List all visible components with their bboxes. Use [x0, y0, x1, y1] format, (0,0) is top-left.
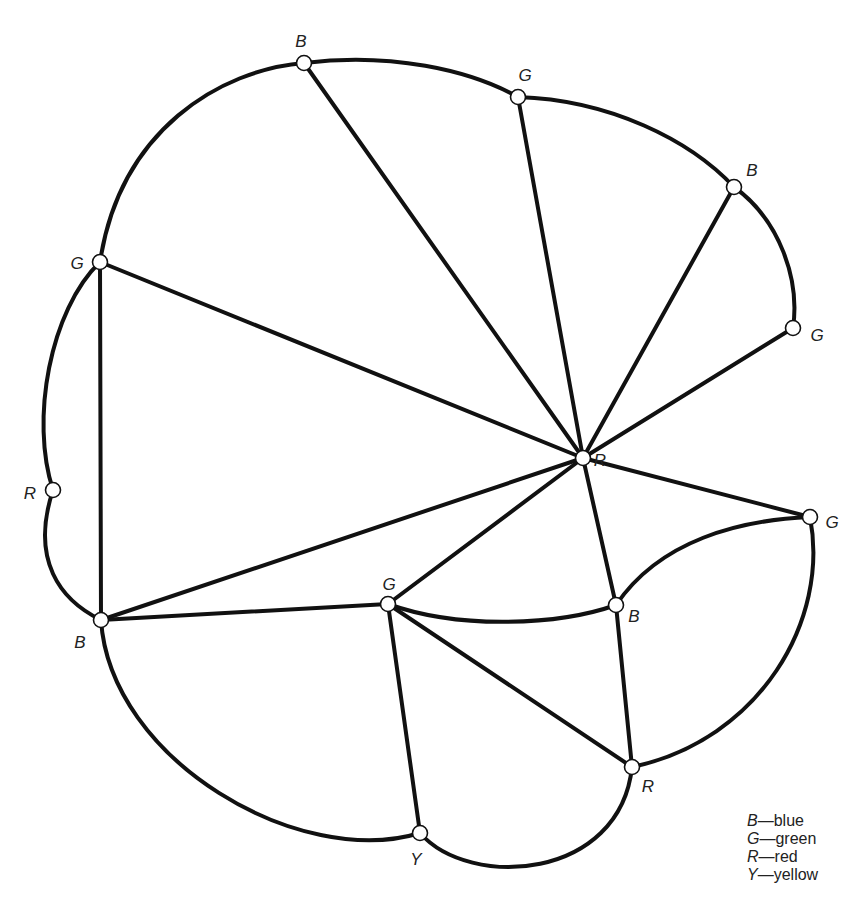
vertex-color-label: B — [628, 607, 639, 626]
vertex-color-label: G — [810, 326, 823, 345]
vertex-color-label: Y — [410, 850, 423, 869]
node-labels-group: BGBGGRRGBGBRY — [24, 32, 839, 869]
edge-n3-n4 — [734, 187, 794, 328]
vertex-n8 — [803, 510, 818, 525]
edge-n10-n11 — [388, 604, 616, 622]
edge-n9-n13 — [101, 620, 420, 840]
legend-key: R — [747, 848, 759, 865]
vertex-n12 — [625, 760, 640, 775]
edge-n13-n12 — [420, 767, 632, 867]
edge-n4-n6 — [583, 328, 793, 458]
vertex-color-label: G — [70, 254, 83, 273]
vertex-n6 — [576, 451, 591, 466]
vertex-color-label: G — [518, 66, 531, 85]
vertex-n13 — [413, 826, 428, 841]
edge-n9-n6 — [101, 458, 583, 620]
vertex-n3 — [727, 180, 742, 195]
edge-n5-n7 — [44, 262, 100, 490]
legend-row-green: G—green — [747, 830, 818, 848]
legend-row-red: R—red — [747, 848, 818, 866]
legend-label: blue — [774, 812, 804, 829]
edge-n6-n8 — [583, 458, 810, 517]
legend-label: red — [775, 848, 798, 865]
vertex-color-label: B — [746, 161, 757, 180]
edge-n5-n6 — [100, 262, 583, 458]
vertex-n10 — [381, 597, 396, 612]
legend-separator: — — [758, 812, 774, 829]
edge-n10-n6 — [388, 458, 583, 604]
vertex-color-label: G — [825, 513, 838, 532]
legend-key: G — [747, 830, 759, 847]
vertex-color-label: B — [295, 32, 306, 51]
legend-row-blue: B—blue — [747, 812, 818, 830]
vertex-n4 — [786, 321, 801, 336]
edge-n10-n12 — [388, 604, 632, 767]
legend-label: green — [775, 830, 816, 847]
vertex-color-label: R — [642, 777, 654, 796]
edge-n10-n13 — [388, 604, 420, 833]
edge-n3-n6 — [583, 187, 734, 458]
vertex-n7 — [46, 483, 61, 498]
legend-separator: — — [759, 830, 775, 847]
vertex-n9 — [94, 613, 109, 628]
edge-n7-n9 — [45, 490, 101, 620]
edge-n11-n8 — [616, 517, 810, 605]
vertex-n5 — [93, 255, 108, 270]
vertex-color-label: G — [382, 575, 395, 594]
vertex-color-label: R — [594, 451, 606, 470]
edges-group — [44, 60, 814, 867]
vertex-n11 — [609, 598, 624, 613]
edge-n11-n12 — [616, 605, 632, 767]
edge-n2-n3 — [518, 97, 734, 187]
edge-n5-n1 — [100, 63, 304, 262]
nodes-group — [46, 56, 818, 841]
edge-n5-n9 — [100, 262, 101, 620]
vertex-color-label: B — [74, 633, 85, 652]
vertex-n2 — [511, 90, 526, 105]
vertex-color-label: R — [24, 484, 36, 503]
edge-n1-n2 — [304, 60, 518, 97]
graph-diagram: BGBGGRRGBGBRY — [0, 0, 863, 900]
edge-n1-n6 — [304, 63, 583, 458]
edge-n8-n12 — [632, 517, 813, 767]
edge-n2-n6 — [518, 97, 583, 458]
legend-label: yellow — [774, 866, 818, 883]
legend-row-yellow: Y—yellow — [747, 866, 818, 884]
edge-n6-n11 — [583, 458, 616, 605]
legend-separator: — — [758, 866, 774, 883]
legend-separator: — — [759, 848, 775, 865]
vertex-n1 — [297, 56, 312, 71]
legend-key: Y — [747, 866, 758, 883]
color-legend: B—blue G—green R—red Y—yellow — [747, 812, 818, 884]
legend-key: B — [747, 812, 758, 829]
